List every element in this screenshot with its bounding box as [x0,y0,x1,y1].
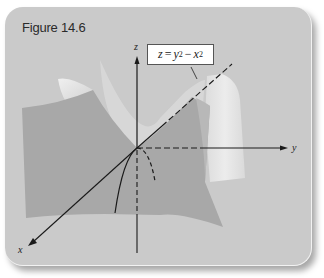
x-axis-label: x [18,244,22,255]
figure-title: Figure 14.6 [22,20,86,35]
equation-lhs: z [158,47,163,62]
surface-right-lobe [205,74,245,182]
equation-minus: − [185,47,192,62]
equation-term1-exponent: 2 [179,50,183,59]
z-axis-arrowhead [135,56,140,64]
y-axis-label: y [292,142,296,153]
equation-label-box: z = y2 − x2 [147,44,214,65]
equation-leader-line [191,67,197,79]
y-axis-arrowhead [280,146,288,151]
z-axis-label: z [134,41,138,52]
saddle-surface-plot [0,0,324,278]
equation-equals: = [165,47,172,62]
equation-term2-exponent: 2 [199,50,203,59]
